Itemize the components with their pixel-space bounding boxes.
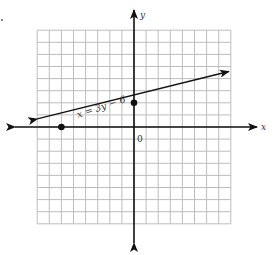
coordinate-plane: x y 0 x = 3y − 6 [0,0,274,255]
origin-label: 0 [137,134,143,144]
y-axis-label: y [139,10,146,20]
artifact-dot [1,19,3,21]
intercept-point [58,124,65,131]
intercept-point [131,100,138,107]
equation-label: x = 3y − 6 [75,93,127,120]
x-axis-label: x [261,122,266,132]
